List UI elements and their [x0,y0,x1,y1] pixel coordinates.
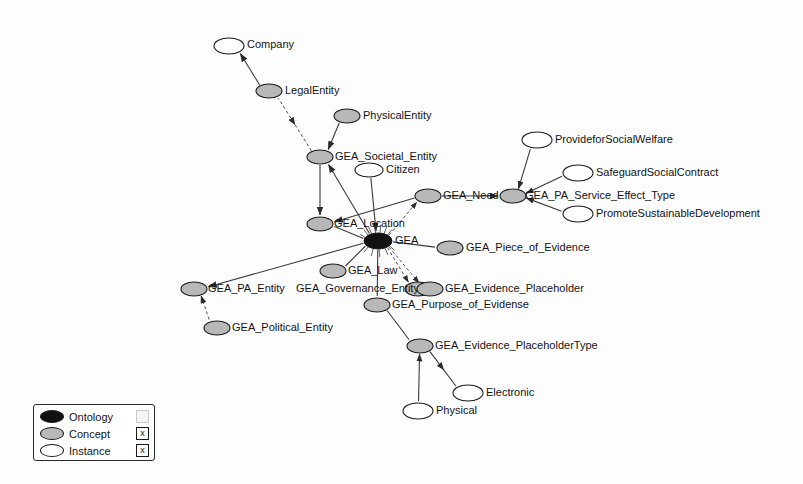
legend-panel: OntologyConceptxInstancex [33,404,155,461]
legend-label: Concept [69,428,136,440]
ontology-graph-canvas: CompanyLegalEntityPhysicalEntityGEA_Soci… [0,0,803,484]
node-label: Citizen [386,163,420,175]
node-label: GEA_PA_Entity [208,282,285,294]
node-ellipse-concept[interactable] [307,217,333,231]
node-label: GEA [395,234,419,246]
node-ellipse-concept[interactable] [204,321,230,335]
graph-node-gea-pa-service-effect-type[interactable]: GEA_PA_Service_Effect_Type [500,189,675,203]
graph-edge [430,352,456,386]
legend-label: Ontology [69,411,136,423]
graph-node-provideforsocialwelfare[interactable]: ProvideforSocialWelfare [522,132,673,148]
node-label: GEA_Political_Entity [232,321,333,333]
node-label: Company [247,38,295,50]
node-label: GEA_Need [443,189,499,201]
legend-row-ontology[interactable]: Ontology [34,408,154,425]
graph-node-promotesustainabledevelopment[interactable]: PromoteSustainableDevelopment [563,206,760,222]
node-ellipse-instance[interactable] [214,38,244,54]
graph-node-company[interactable]: Company [214,38,295,54]
node-label: SafeguardSocialContract [596,166,718,178]
graph-node-citizen[interactable]: Citizen [355,163,420,177]
node-ellipse-concept[interactable] [437,241,463,255]
graph-edge [419,354,420,401]
legend-visibility-checkbox[interactable]: x [136,427,149,440]
graph-edge [201,296,209,320]
node-label: GEA_Societal_Entity [335,150,438,162]
graph-node-gea-piece-of-evidence[interactable]: GEA_Piece_of_Evidence [437,241,590,255]
node-ellipse-concept[interactable] [417,282,443,296]
legend-row-concept[interactable]: Conceptx [34,425,154,442]
node-label: LegalEntity [285,84,340,96]
node-ellipse-instance[interactable] [355,163,383,177]
graph-node-gea-location[interactable]: GEA_Location [307,217,405,231]
node-label: GEA_Location [334,217,405,229]
node-ellipse-concept[interactable] [334,109,360,123]
node-ellipse-concept[interactable] [364,298,390,312]
legend-swatch-concept-icon [40,427,64,440]
node-label: GEA_Law [348,264,398,276]
node-ellipse-instance[interactable] [522,132,552,148]
node-ellipse-instance[interactable] [563,165,593,181]
legend-visibility-checkbox[interactable] [136,410,149,423]
graph-node-gea-societal-entity[interactable]: GEA_Societal_Entity [307,150,438,164]
legend-row-instance[interactable]: Instancex [34,442,154,459]
node-label: GEA_PA_Service_Effect_Type [525,189,675,201]
nodes-layer: CompanyLegalEntityPhysicalEntityGEA_Soci… [181,38,760,419]
node-label: PhysicalEntity [363,109,432,121]
node-label: ProvideforSocialWelfare [555,133,673,145]
node-label: GEA_Piece_of_Evidence [466,241,590,253]
node-ellipse-concept[interactable] [256,84,282,98]
node-ellipse-concept[interactable] [307,150,333,164]
node-label: GEA_Governance_Entity [296,282,419,294]
graph-node-safeguardsocialcontract[interactable]: SafeguardSocialContract [563,165,718,181]
node-ellipse-instance[interactable] [403,403,433,419]
graph-node-gea-pa-entity[interactable]: GEA_PA_Entity [181,282,285,296]
legend-swatch-ontology-icon [40,410,64,423]
graph-node-gea-law[interactable]: GEA_Law [320,264,398,278]
graph-node-gea-political-entity[interactable]: GEA_Political_Entity [204,321,333,335]
graph-node-gea-evidence-placeholdertype[interactable]: GEA_Evidence_PlaceholderType [407,339,598,353]
node-label: PromoteSustainableDevelopment [596,207,760,219]
graph-edge [328,123,339,150]
node-ellipse-instance[interactable] [453,385,483,401]
graph-node-legalentity[interactable]: LegalEntity [256,84,340,98]
graph-edge [387,311,409,340]
node-ellipse-instance[interactable] [563,206,593,222]
graph-node-gea-need[interactable]: GEA_Need [415,189,499,203]
node-label: GEA_Purpose_of_Evidense [392,298,529,310]
node-ellipse-concept[interactable] [181,282,207,296]
node-ellipse-concept[interactable] [320,264,346,278]
node-ellipse-concept[interactable] [500,189,526,203]
graph-node-gea-evidence-placeholder[interactable]: GEA_Evidence_Placeholder [417,282,584,296]
legend-label: Instance [69,445,136,457]
node-ellipse-concept[interactable] [415,189,441,203]
node-label: GEA_Evidence_PlaceholderType [435,339,598,351]
graph-edge [278,98,311,151]
graph-node-physical[interactable]: Physical [403,403,477,419]
graph-node-gea-purpose-of-evidense[interactable]: GEA_Purpose_of_Evidense [364,298,529,312]
graph-node-gea[interactable]: GEA [364,233,419,249]
node-ellipse-ontology[interactable] [364,233,392,249]
graph-node-electronic[interactable]: Electronic [453,385,535,401]
legend-visibility-checkbox[interactable]: x [136,444,149,457]
graph-node-gea-governance-entity[interactable]: GEA_Governance_Entity [296,282,431,296]
node-label: Electronic [486,386,535,398]
legend-swatch-instance-icon [40,444,64,457]
node-ellipse-concept[interactable] [407,339,433,353]
graph-edge [519,149,531,188]
node-label: GEA_Evidence_Placeholder [445,282,584,294]
graph-node-physicalentity[interactable]: PhysicalEntity [334,109,432,123]
node-label: Physical [436,404,477,416]
graph-edge [240,53,259,85]
